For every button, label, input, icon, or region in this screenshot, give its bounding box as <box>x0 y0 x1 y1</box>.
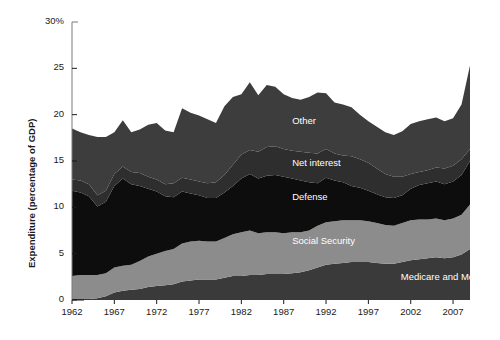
y-tick-label: 10 <box>30 200 64 211</box>
x-tick-label: 1977 <box>179 306 219 317</box>
x-tick-label: 2002 <box>391 306 431 317</box>
x-tick-label: 1987 <box>264 306 304 317</box>
x-tick-label: 1982 <box>221 306 261 317</box>
x-tick-label: 1997 <box>348 306 388 317</box>
x-tick-label: 1967 <box>94 306 134 317</box>
y-tick-label: 30% <box>30 15 64 26</box>
x-tick-label: 2007 <box>433 306 473 317</box>
x-tick-label: 1972 <box>137 306 177 317</box>
x-tick-label: 1962 <box>52 306 92 317</box>
y-tick-label: 25 <box>30 61 64 72</box>
area-series-group <box>72 66 470 300</box>
y-axis-title: Expenditure (percentage of GDP) <box>26 119 37 268</box>
y-tick-label: 5 <box>30 247 64 258</box>
stacked-area-chart: Expenditure (percentage of GDP) 30%25201… <box>0 0 500 340</box>
y-tick-label: 15 <box>30 154 64 165</box>
plot-area <box>0 0 500 340</box>
y-tick-label: 20 <box>30 108 64 119</box>
x-tick-label: 1992 <box>306 306 346 317</box>
x-axis-tick-marks <box>72 300 453 304</box>
y-tick-label: 0 <box>30 293 64 304</box>
